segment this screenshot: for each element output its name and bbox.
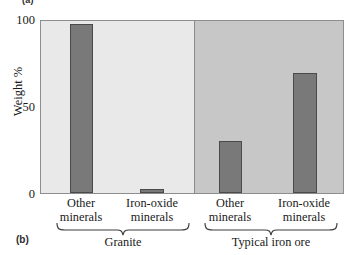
group-background-granite xyxy=(41,21,194,193)
category-label-line1: Iron-oxide xyxy=(261,197,347,211)
bar-granite-other-minerals xyxy=(70,24,93,193)
bar-iron-ore-iron-oxide-minerals xyxy=(293,73,317,193)
group-brace-typical-iron-ore xyxy=(203,222,339,236)
figure-panel-b: (a) Weight % 100 50 0 Other minerals Iro… xyxy=(0,0,352,255)
panel-a-label: (a) xyxy=(22,0,34,5)
group-name-typical-iron-ore: Typical iron ore xyxy=(203,235,339,250)
y-axis-title: Weight % xyxy=(11,52,26,132)
category-label-granite-iron-oxide: Iron-oxide minerals xyxy=(109,197,195,224)
bar-iron-ore-other-minerals xyxy=(219,141,242,193)
panel-b-label: (b) xyxy=(16,234,29,245)
group-name-granite: Granite xyxy=(55,235,191,250)
category-label-line1: Iron-oxide xyxy=(109,197,195,211)
bar-granite-iron-oxide-minerals xyxy=(140,189,164,193)
plot-area xyxy=(40,20,344,194)
y-tick-label-100: 100 xyxy=(5,13,35,28)
group-divider xyxy=(194,21,195,193)
group-background-typical-iron-ore xyxy=(194,21,343,193)
category-label-iron-ore-iron-oxide: Iron-oxide minerals xyxy=(261,197,347,224)
group-brace-granite xyxy=(55,222,191,236)
y-tick-label-50: 50 xyxy=(5,100,35,115)
y-tick-label-0: 0 xyxy=(5,187,35,202)
